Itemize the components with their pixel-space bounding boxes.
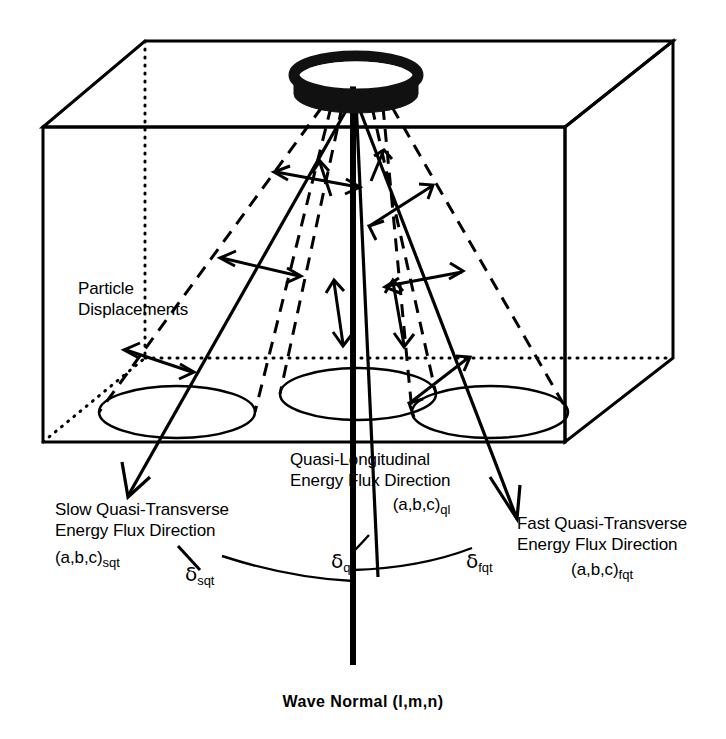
ql-vector-text: (a,b,c) <box>393 495 440 514</box>
fast-qt-vector: (a,b,c)fqt <box>517 559 687 585</box>
delta-fqt-arc <box>353 548 472 570</box>
ql-line-1: Quasi-Longitudinal <box>290 449 450 470</box>
source-disk <box>294 56 418 113</box>
particle-arrow-2-head-a <box>369 221 384 240</box>
slow-quasi-transverse-label: Slow Quasi-Transverse Energy Flux Direct… <box>55 499 229 573</box>
sqt-cone-left-edge <box>99 107 322 412</box>
delta-ql-subscript: ql <box>343 560 353 575</box>
box-hidden-bottom-left-diagonal <box>43 358 145 442</box>
fast-qt-vector-text: (a,b,c) <box>571 560 618 579</box>
delta-fqt-subscript: fqt <box>478 560 492 575</box>
particle-arrow-9 <box>411 358 468 402</box>
slow-qt-vector-text: (a,b,c) <box>55 548 102 567</box>
source-disk-inner-opening <box>303 62 409 87</box>
particle-displacements-label: Particle Displacements <box>78 278 188 320</box>
sqt-cone-right-edge <box>255 107 331 412</box>
wave-normal-title: Wave Normal (l,m,n) <box>0 691 726 712</box>
ql-vector-subscript: ql <box>440 502 450 517</box>
fast-quasi-transverse-label: Fast Quasi-Transverse Energy Flux Direct… <box>517 513 687 585</box>
delta-fqt-symbol: δ <box>466 549 478 573</box>
particle-displacements-line-2: Displacements <box>78 299 188 320</box>
slow-qt-vector-subscript: sqt <box>102 555 119 570</box>
diagram-canvas <box>0 0 726 739</box>
ql-vector: (a,b,c)ql <box>290 494 450 520</box>
ql-line-2: Energy Flux Direction <box>290 470 450 491</box>
particle-displacements-line-1: Particle <box>78 278 188 299</box>
particle-arrow-6-head-b <box>449 263 463 279</box>
slow-qt-line-1: Slow Quasi-Transverse <box>55 499 229 520</box>
delta-ql-symbol: δ <box>331 549 343 573</box>
delta-sqt-subscript: sqt <box>197 573 214 588</box>
fast-qt-vector-subscript: fqt <box>619 567 633 582</box>
slow-qt-line-2: Energy Flux Direction <box>55 520 229 541</box>
fast-qt-line-2: Energy Flux Direction <box>517 534 687 555</box>
delta-sqt-label: δsqt <box>185 564 214 591</box>
anisotropic-wave-propagation-figure: Particle Displacements Slow Quasi-Transv… <box>0 0 726 739</box>
energy-flux-cones <box>99 107 568 412</box>
delta-sqt-symbol: δ <box>185 562 197 586</box>
fast-qt-line-1: Fast Quasi-Transverse <box>517 513 687 534</box>
quasi-longitudinal-label: Quasi-Longitudinal Energy Flux Direction… <box>290 449 450 520</box>
box-right-face <box>565 41 673 442</box>
delta-ql-label: δql <box>331 551 353 578</box>
particle-arrow-1 <box>276 172 358 187</box>
bottom-face-ellipses <box>99 368 568 438</box>
delta-fqt-label: δfqt <box>466 551 493 578</box>
